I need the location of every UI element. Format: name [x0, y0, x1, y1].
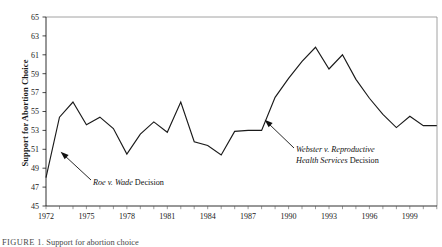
x-tick-1996: 1996	[361, 212, 377, 221]
x-tick-1978: 1978	[119, 212, 135, 221]
annotation-webster-case-name-part1: Webster v. Reproductive	[296, 145, 375, 154]
annotation-webster-line2: Health Services Decision	[296, 156, 379, 167]
x-tick-1975: 1975	[78, 212, 94, 221]
annotation-webster-line1: Webster v. Reproductive	[296, 145, 379, 156]
y-axis-tick-labels: 45 47 49 51 53 55 57 59 61 63 65	[31, 13, 39, 211]
figure-abortion-support-chart: Support for Abortion Choice 45 47 49 51 …	[0, 0, 442, 247]
y-tick-65: 65	[31, 13, 39, 22]
annotation-roe-v-wade: Roe v. Wade Decision	[93, 178, 164, 189]
annotation-webster-case-name-part2: Health Services	[296, 156, 348, 165]
x-tick-1981: 1981	[159, 212, 175, 221]
y-tick-51: 51	[31, 145, 39, 154]
webster-annotation-arrow	[265, 120, 294, 148]
x-axis-minor-ticks	[46, 206, 437, 209]
y-tick-53: 53	[31, 126, 39, 135]
y-tick-59: 59	[31, 70, 39, 79]
y-tick-49: 49	[31, 164, 39, 173]
annotation-roe-suffix: Decision	[133, 178, 164, 187]
roe-annotation-arrow	[61, 152, 91, 180]
x-axis-tick-labels: 1972 1975 1978 1981 1984 1987 1990 1993 …	[38, 212, 418, 221]
annotation-roe-case-name: Roe v. Wade	[93, 178, 133, 187]
annotation-webster: Webster v. Reproductive Health Services …	[296, 145, 379, 166]
y-tick-45: 45	[31, 202, 39, 211]
x-tick-1999: 1999	[402, 212, 418, 221]
x-tick-1972: 1972	[38, 212, 54, 221]
line-chart-plot: 45 47 49 51 53 55 57 59 61 63 65	[0, 0, 442, 247]
y-tick-55: 55	[31, 107, 39, 116]
x-tick-1984: 1984	[200, 212, 216, 221]
figure-caption-text: Support for abortion choice	[46, 238, 138, 247]
y-tick-63: 63	[31, 32, 39, 41]
y-axis-ticks	[43, 17, 47, 206]
figure-caption-label: FIGURE 1.	[2, 238, 44, 247]
figure-caption: FIGURE 1. Support for abortion choice	[2, 238, 440, 247]
x-tick-1990: 1990	[281, 212, 297, 221]
y-tick-61: 61	[31, 51, 39, 60]
y-tick-57: 57	[31, 88, 39, 97]
annotation-webster-suffix: Decision	[348, 156, 379, 165]
x-tick-1987: 1987	[240, 212, 256, 221]
y-tick-47: 47	[31, 183, 39, 192]
x-tick-1993: 1993	[321, 212, 337, 221]
